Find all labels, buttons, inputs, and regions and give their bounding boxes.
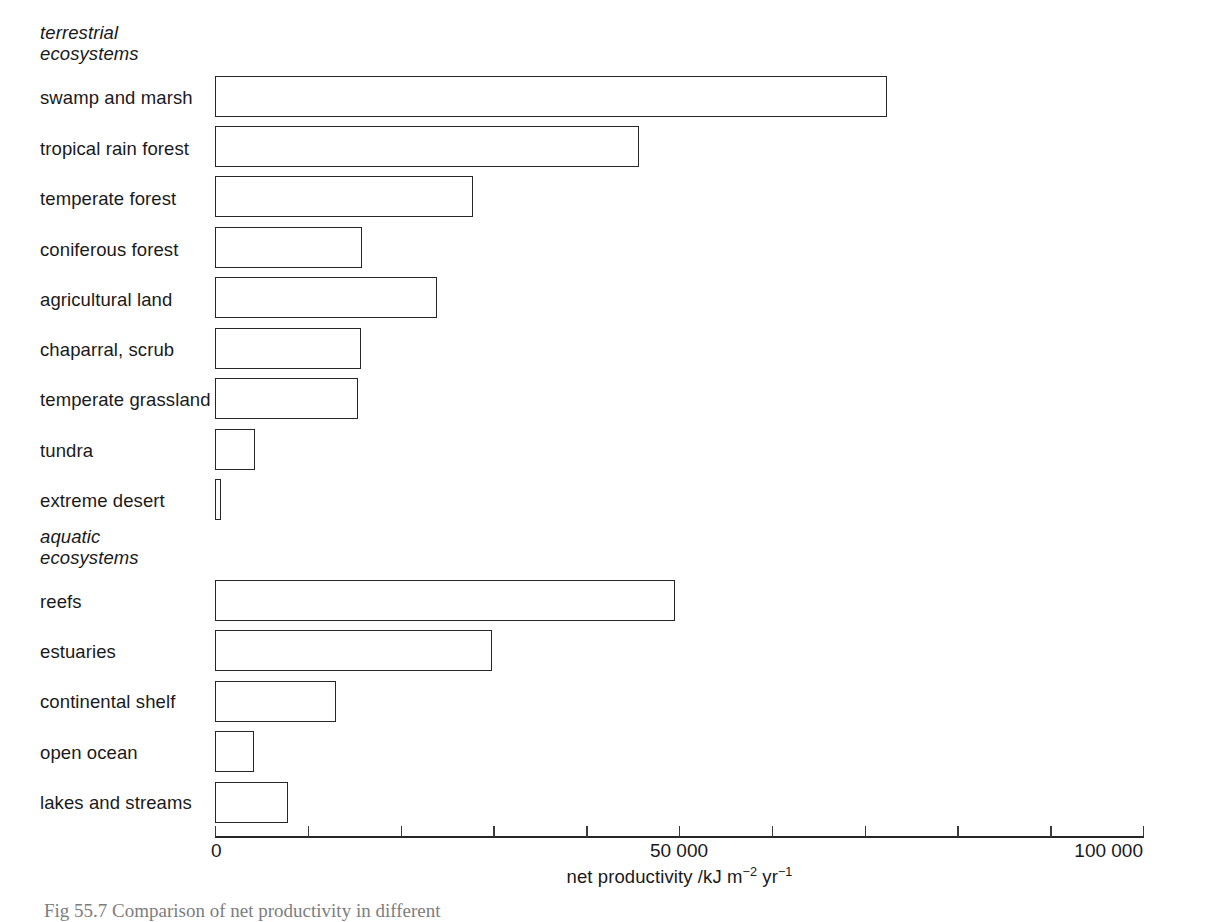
category-label-coniferous-forest: coniferous forest (40, 240, 205, 260)
category-label-agricultural-land: agricultural land (40, 290, 205, 310)
category-label-chaparral-scrub: chaparral, scrub (40, 340, 205, 360)
bar-extreme-desert (215, 479, 221, 520)
x-axis-tick-40000 (586, 826, 587, 837)
plot-area (215, 0, 1143, 838)
x-axis-tick-label-0: 0 (211, 840, 222, 862)
bar-estuaries (215, 630, 492, 671)
category-label-temperate-grassland: temperate grassland (40, 390, 205, 410)
bar-tropical-rain-forest (215, 126, 639, 167)
x-axis-title-exponent-1: −2 (743, 865, 758, 879)
figure-caption: Fig 55.7 Comparison of net productivity … (44, 900, 441, 922)
x-axis-tick-80000 (957, 826, 958, 837)
x-axis-tick-60000 (772, 826, 773, 837)
x-axis-tick-90000 (1050, 826, 1051, 837)
category-label-temperate-forest: temperate forest (40, 189, 205, 209)
x-axis-tick-label-50000: 50 000 (650, 840, 708, 862)
x-axis-tick-30000 (493, 826, 494, 837)
x-axis-tick-label-100000: 100 000 (1074, 840, 1143, 862)
group-heading-terrestrial: terrestrial ecosystems (40, 22, 139, 64)
bar-lakes-and-streams (215, 782, 288, 823)
bar-temperate-grassland (215, 378, 358, 419)
x-axis-tick-50000 (679, 826, 680, 837)
bar-coniferous-forest (215, 227, 362, 268)
category-label-open-ocean: open ocean (40, 743, 205, 763)
bar-open-ocean (215, 731, 254, 772)
category-label-extreme-desert: extreme desert (40, 491, 205, 511)
x-axis-tick-70000 (865, 826, 866, 837)
category-label-reefs: reefs (40, 592, 205, 612)
x-axis-title: net productivity /kJ m−2 yr−1 (215, 866, 1144, 888)
category-label-estuaries: estuaries (40, 642, 205, 662)
x-axis-title-mid: yr (757, 866, 778, 887)
category-label-continental-shelf: continental shelf (40, 692, 205, 712)
bar-continental-shelf (215, 681, 336, 722)
bar-tundra (215, 429, 255, 470)
category-label-tundra: tundra (40, 441, 205, 461)
bar-agricultural-land (215, 277, 437, 318)
x-axis-title-exponent-2: −1 (778, 865, 793, 879)
category-label-tropical-rain-forest: tropical rain forest (40, 139, 205, 159)
x-axis-tick-0 (215, 826, 216, 837)
bar-chaparral-scrub (215, 328, 361, 369)
x-axis-tick-10000 (308, 826, 309, 837)
x-axis-title-main: net productivity /kJ m (567, 866, 743, 887)
category-label-lakes-and-streams: lakes and streams (40, 793, 205, 813)
bar-reefs (215, 580, 675, 621)
x-axis-tick-100000 (1143, 826, 1144, 837)
bar-swamp-and-marsh (215, 76, 887, 117)
group-heading-aquatic: aquatic ecosystems (40, 526, 139, 568)
category-label-swamp-and-marsh: swamp and marsh (40, 88, 205, 108)
bar-temperate-forest (215, 176, 473, 217)
x-axis-tick-20000 (401, 826, 402, 837)
